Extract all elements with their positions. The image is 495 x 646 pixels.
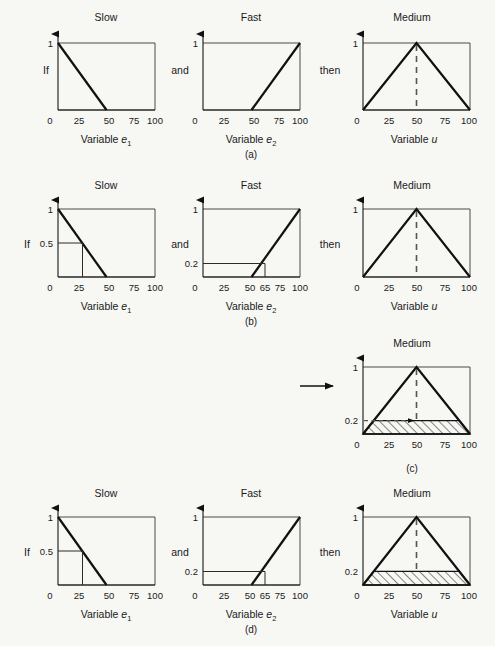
xtick-50-a3: 50: [412, 115, 423, 126]
connector-and-d: and: [171, 546, 189, 558]
xtick-50-d1: 50: [104, 590, 115, 601]
xtick-25-d3: 25: [384, 590, 395, 601]
panel-title-medium-a: Medium: [393, 11, 431, 23]
xtick-75-d2: 75: [275, 590, 286, 601]
ytick-1-b1: 1: [48, 204, 53, 215]
xtick-25-a3: 25: [384, 115, 395, 126]
xtick-25-a2: 25: [219, 115, 230, 126]
connector-if-d: If: [24, 546, 30, 558]
xtick-100-d3: 100: [461, 590, 477, 601]
xlabel-d1-prefix: Variable: [81, 608, 122, 620]
connector-and-b: and: [171, 238, 189, 250]
caption-d: (d): [245, 624, 257, 635]
xtick-50-a1: 50: [104, 115, 115, 126]
xtick-0-d1: 0: [47, 590, 52, 601]
ytick-point-two-c: 0.2: [345, 415, 358, 426]
panel-title-fast-a: Fast: [241, 11, 262, 23]
xtick-50-b3: 50: [412, 282, 423, 293]
xtick-50-c: 50: [412, 439, 423, 450]
caption-c: (c): [406, 463, 418, 474]
xtick-65-d2: 65: [260, 590, 271, 601]
ytick-point-two-d2: 0.2: [185, 566, 198, 577]
xtick-25-b2: 25: [219, 282, 230, 293]
ytick-1-a2: 1: [193, 38, 198, 49]
panel-title-fast-b: Fast: [241, 179, 262, 191]
panel-title-slow-a: Slow: [95, 11, 118, 23]
xtick-100-c: 100: [461, 439, 477, 450]
ytick-point-two-d3: 0.2: [345, 566, 358, 577]
xlabel-b1-sub: 1: [127, 306, 131, 315]
ytick-1-a1: 1: [48, 38, 53, 49]
panel-title-medium-c: Medium: [393, 337, 431, 349]
xtick-0-b1: 0: [47, 282, 52, 293]
xlabel-a3: Variable u: [391, 133, 438, 145]
xlabel-b3-prefix: Variable: [391, 300, 432, 312]
caption-b: (b): [245, 316, 257, 327]
ytick-1-d3: 1: [353, 512, 358, 523]
xtick-100-b2: 100: [292, 282, 308, 293]
ytick-1-b2: 1: [193, 204, 198, 215]
panel-title-fast-d: Fast: [241, 487, 262, 499]
xtick-75-d3: 75: [440, 590, 451, 601]
ytick-1-b3: 1: [353, 204, 358, 215]
panel-title-slow-b: Slow: [95, 179, 118, 191]
ytick-1-c: 1: [353, 362, 358, 373]
fuzzy-inference-figure: If Slow 1 0 25 50 75 100 Variable e1: [0, 0, 495, 646]
xtick-0-b2: 0: [192, 282, 197, 293]
xlabel-d3: Variable u: [391, 608, 438, 620]
connector-if-b: If: [24, 238, 30, 250]
xlabel-a1-prefix: Variable: [81, 133, 122, 145]
xtick-75-a3: 75: [440, 115, 451, 126]
xlabel-d2-prefix: Variable: [226, 608, 267, 620]
xtick-0-d2: 0: [192, 590, 197, 601]
xtick-0-d3: 0: [354, 590, 359, 601]
xtick-100-b1: 100: [147, 282, 163, 293]
xlabel-d2-sub: 2: [272, 614, 276, 623]
connector-then-b: then: [320, 238, 341, 250]
caption-a: (a): [245, 149, 257, 160]
xtick-0-a1: 0: [47, 115, 52, 126]
xtick-75-b2: 75: [275, 282, 286, 293]
connector-then-a: then: [320, 64, 341, 76]
xtick-75-a1: 75: [129, 115, 140, 126]
panel-title-slow-d: Slow: [95, 487, 118, 499]
connector-and-a: and: [171, 64, 189, 76]
xlabel-a3-var: u: [431, 133, 437, 145]
connector-then-d: then: [320, 546, 341, 558]
xtick-25-a1: 25: [74, 115, 85, 126]
clipped-region-fill-c: [363, 421, 470, 434]
xtick-50-d3: 50: [412, 590, 423, 601]
panel-title-medium-d: Medium: [393, 487, 431, 499]
ytick-half-d1: 0.5: [40, 546, 53, 557]
xtick-100-b3: 100: [461, 282, 477, 293]
ytick-1-a3: 1: [353, 38, 358, 49]
ytick-half-b1: 0.5: [40, 238, 53, 249]
xlabel-d1-sub: 1: [127, 614, 131, 623]
xtick-50-b2: 50: [245, 282, 256, 293]
xtick-0-b3: 0: [354, 282, 359, 293]
xlabel-a3-prefix: Variable: [391, 133, 432, 145]
figure-canvas: If Slow 1 0 25 50 75 100 Variable e1: [0, 0, 495, 646]
xtick-25-c: 25: [384, 439, 395, 450]
panel-title-medium-b: Medium: [393, 179, 431, 191]
xtick-100-d2: 100: [292, 590, 308, 601]
xlabel-b2-prefix: Variable: [226, 300, 267, 312]
xtick-50-a2: 50: [249, 115, 260, 126]
xtick-75-b1: 75: [129, 282, 140, 293]
xlabel-d3-prefix: Variable: [391, 608, 432, 620]
xtick-100-a2: 100: [292, 115, 308, 126]
ytick-1-d1: 1: [48, 512, 53, 523]
xtick-25-b3: 25: [384, 282, 395, 293]
ytick-1-d2: 1: [193, 512, 198, 523]
xlabel-b1-prefix: Variable: [81, 300, 122, 312]
xtick-100-a3: 100: [461, 115, 477, 126]
xtick-25-d1: 25: [74, 590, 85, 601]
xtick-75-c: 75: [440, 439, 451, 450]
xtick-25-d2: 25: [219, 590, 230, 601]
xtick-75-d1: 75: [129, 590, 140, 601]
xlabel-b2-sub: 2: [272, 306, 276, 315]
xlabel-d3-var: u: [431, 608, 437, 620]
xtick-0-a2: 0: [192, 115, 197, 126]
xtick-75-a2: 75: [274, 115, 285, 126]
xtick-100-d1: 100: [147, 590, 163, 601]
